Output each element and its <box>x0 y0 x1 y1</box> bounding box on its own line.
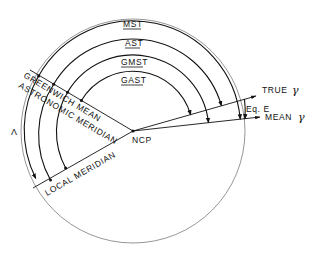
mean-equinox-line <box>133 117 260 131</box>
gast-label: GAST <box>121 75 147 85</box>
true-gamma-symbol: γ <box>292 84 299 97</box>
ast-label: AST <box>125 38 143 48</box>
longitude-label: Λ <box>11 127 18 137</box>
greenwich-label-line2: ASTRONOMIC MERIDIAN <box>17 80 119 146</box>
ncp-label: NCP <box>132 135 152 145</box>
ncp-point <box>131 129 134 132</box>
local-meridian-label: LOCAL MERIDIAN <box>43 149 117 197</box>
mean-gamma-symbol: γ <box>298 111 305 124</box>
mean-gamma-label: MEAN <box>265 112 292 122</box>
gmst-label: GMST <box>121 57 148 67</box>
ast-arc <box>54 39 222 106</box>
sidereal-time-diagram: MST AST GMST GAST GREENWICH MEAN ASTRONO… <box>0 0 311 254</box>
mst-label: MST <box>123 19 143 29</box>
true-gamma-label: TRUE <box>262 85 288 95</box>
